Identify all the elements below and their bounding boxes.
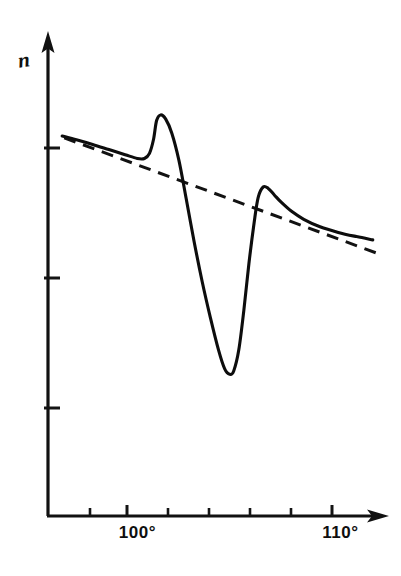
plot-canvas [0, 0, 401, 576]
baseline-extrapolation-line [64, 138, 379, 254]
x-tick-label-100: 100° [119, 523, 156, 543]
x-axis-group [47, 505, 389, 523]
y-axis-group [42, 31, 61, 516]
figure-root: n 100° 110° [0, 0, 401, 576]
x-tick-label-110: 110° [322, 523, 358, 543]
